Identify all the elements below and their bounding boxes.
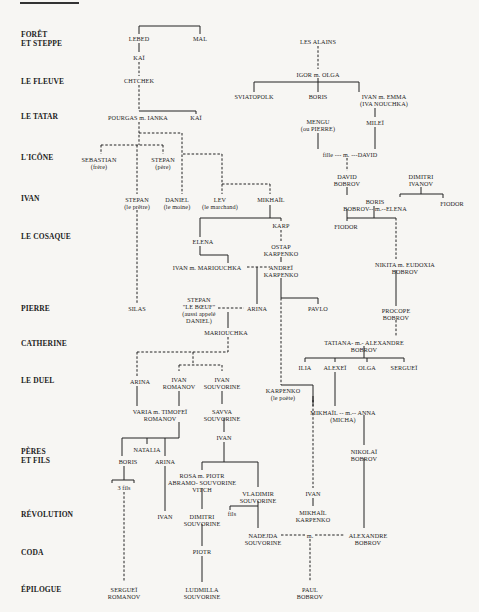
person-node: SAVVA SOUVORINE — [204, 408, 241, 422]
person-node: NIKITA m. EUDOXIA BOBROV — [375, 261, 435, 275]
person-node: IVAN ROMANOV — [163, 376, 196, 390]
person-node: NATALIA — [133, 446, 160, 453]
person-node: IVAN SOUVORINE — [204, 376, 241, 390]
person-node: FIODOR — [440, 200, 464, 207]
person-node: ILIA — [299, 364, 312, 371]
person-node: SERGUEÏ ROMANOV — [108, 586, 141, 600]
person-node: LEBED — [129, 35, 149, 42]
person-node: MIKHAÏL -- m.-- ANNA (MICHA) — [310, 409, 375, 423]
person-node: MARIOUCHKA — [204, 329, 248, 336]
person-node: ELENA — [193, 238, 214, 245]
person-node: SEBASTIAN (frère) — [82, 156, 117, 170]
person-node: MIKHAÏL KARPENKO — [296, 509, 331, 523]
person-node: fille --- m. ---DAVID — [323, 151, 378, 158]
person-node: VARIA m. TIMOFEÏ ROMANOV — [133, 408, 187, 422]
person-node: MENGU (ou PIERRE) — [301, 118, 335, 132]
person-node: LEV (le marchand) — [202, 196, 238, 210]
person-node: PIOTR — [193, 548, 211, 555]
person-node: fils — [228, 510, 236, 517]
person-node: SVIATOPOLK — [234, 93, 273, 100]
person-node: KAÏ — [190, 114, 201, 121]
family-tree-lines — [0, 0, 479, 612]
person-node: STEPAN (le prêtre) — [124, 196, 150, 210]
person-node: DAVID BOBROV — [334, 173, 360, 187]
person-node: IVAN m. EMMA (IVA NOUCHKA) — [360, 93, 408, 107]
person-node: LUDMILLA SOUVORINE — [184, 586, 221, 600]
person-node: PAUL BOBROV — [297, 586, 323, 600]
person-node: IVAN — [157, 513, 172, 520]
person-node: BORIS — [119, 458, 138, 465]
person-node: STEPAN "LE BŒUF" (aussi appelé DANIEL) — [182, 296, 215, 324]
person-node: POURGAS m. IANKA — [108, 114, 168, 121]
person-node: OSTAP KARPENKO — [264, 243, 299, 257]
person-node: NADEJDA SOUVORINE — [245, 532, 282, 546]
person-node: DIMITRI SOUVORINE — [184, 513, 221, 527]
person-node: ANDREÏ KARPENKO — [264, 264, 299, 278]
person-node: ARINA — [130, 378, 150, 385]
person-node: SILAS — [128, 305, 146, 312]
person-node: STEPAN (père) — [151, 156, 174, 170]
person-node: MAL — [193, 35, 207, 42]
person-node: BORIS — [309, 93, 328, 100]
person-node: ARINA — [155, 458, 175, 465]
person-node: ROSA m. PIOTR ABRAMO- SOUVORINE VITCH — [168, 472, 236, 493]
person-node: DANIEL (le moine) — [164, 196, 191, 210]
person-node: ALEXEÏ — [324, 364, 347, 371]
person-node: NIKOLAÏ BOBROV — [351, 448, 377, 462]
person-node: ARINA — [247, 305, 267, 312]
person-node: KARPENKO (le poète) — [266, 387, 301, 401]
person-node: BORIS BOBROV-- m.--ELENA — [343, 198, 406, 212]
person-node: ALEXANDRE BOBROV — [349, 532, 388, 546]
person-node: IVAN m. MARIOUCHKA — [173, 264, 242, 271]
person-node: CHTCHEK — [124, 77, 154, 84]
person-node: IVAN — [216, 434, 231, 441]
person-node: MILEÏ — [366, 119, 384, 126]
person-node: TATIANA- m.- ALEXANDRE BOBROV — [324, 339, 404, 353]
person-node: KAÏ — [133, 54, 144, 61]
person-node: PAVLO — [308, 305, 328, 312]
person-node: PROCOPE BOBROV — [382, 307, 411, 321]
person-node: SERGUEÏ — [391, 364, 418, 371]
person-node: 3 fils — [117, 484, 130, 491]
person-node: DIMITRI IVANOV — [409, 173, 434, 187]
person-node: OLGA — [358, 364, 376, 371]
person-node: KARP — [273, 222, 290, 229]
marriage-marker: m. — [307, 532, 314, 539]
person-node: IVAN — [305, 490, 320, 497]
person-node: IGOR m. OLGA — [297, 71, 340, 78]
person-node: VLADIMIR SOUVORINE — [240, 490, 277, 504]
person-node: LES ALAINS — [300, 38, 336, 45]
person-node: FIODOR — [334, 223, 358, 230]
person-node: MIKHAÏL — [257, 196, 285, 203]
